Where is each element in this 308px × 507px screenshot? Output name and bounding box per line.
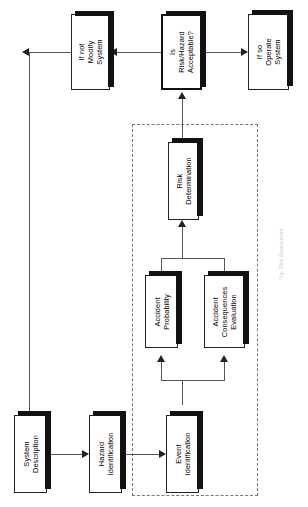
flowchart-canvas: If not Modify System Is Risk/Hazard Acce…: [0, 0, 308, 507]
box-shadow: [172, 138, 203, 143]
fork-bar: [161, 380, 225, 381]
arrowhead-up: [178, 220, 186, 227]
box-shadow: [45, 411, 51, 489]
node-label: If so Operate System: [255, 38, 283, 65]
node-if-so-operate-system[interactable]: If so Operate System: [248, 14, 289, 90]
arrowhead-right: [82, 450, 89, 458]
arrowhead-right: [241, 48, 248, 56]
node-if-not-modify-system[interactable]: If not Modify System: [71, 14, 110, 90]
fork-branch-consequences: [224, 362, 225, 381]
node-accident-consequences-evaluation[interactable]: Accident Consequences Evaluation: [204, 275, 245, 348]
box-shadow: [108, 11, 114, 87]
arrowhead-feedback: [22, 48, 29, 56]
box-shadow: [243, 271, 249, 344]
arrowhead-up: [220, 355, 228, 362]
fork-branch-probability: [161, 362, 162, 381]
box-shadow: [200, 11, 206, 87]
connector-hazard-to-event: [125, 454, 159, 455]
feedback-loop-top: [29, 52, 71, 53]
connector-sysdesc-to-hazard: [50, 454, 82, 455]
merge-stem: [182, 226, 183, 259]
box-shadow: [18, 411, 51, 416]
box-shadow: [120, 411, 126, 489]
node-accident-probability[interactable]: Accident Probability: [145, 275, 178, 348]
feedback-loop-vertical: [29, 52, 30, 393]
node-label: If not Modify System: [77, 39, 105, 64]
box-shadow: [208, 271, 249, 276]
node-label: Event Identification: [173, 433, 191, 476]
node-label: Accident Consequences Evaluation: [211, 286, 239, 337]
arrowhead-right: [159, 450, 166, 458]
box-shadow: [166, 11, 206, 16]
box-shadow: [252, 10, 293, 15]
node-label: Risk Determination: [174, 157, 192, 204]
arrowhead-up: [157, 355, 165, 362]
node-system-description[interactable]: System Description: [14, 415, 47, 493]
box-shadow: [287, 10, 293, 86]
node-risk-determination[interactable]: Risk Determination: [168, 142, 199, 220]
node-label: Is Risk/Hazard Acceptable?: [168, 31, 196, 73]
merge-bar: [161, 258, 225, 259]
box-shadow: [93, 411, 126, 416]
box-shadow: [170, 411, 203, 416]
node-label: Accident Probability: [152, 294, 170, 330]
fork-stem: [182, 380, 183, 405]
box-shadow: [149, 271, 182, 276]
arrowhead-up: [178, 92, 186, 99]
box-shadow: [197, 138, 203, 216]
connector-acceptable-to-modify: [117, 52, 161, 53]
node-hazard-identification[interactable]: Hazard Identification: [89, 415, 122, 493]
connector-riskdet-to-acceptable: [182, 98, 183, 142]
node-label: System Description: [21, 435, 39, 473]
node-label: Hazard Identification: [96, 433, 114, 476]
figure-caption: Fig. Risk Assessment: [278, 228, 284, 280]
box-shadow: [176, 271, 182, 344]
box-shadow: [197, 411, 203, 489]
connector-acceptable-to-operate: [206, 52, 241, 53]
box-shadow: [75, 11, 114, 16]
node-event-identification[interactable]: Event Identification: [166, 415, 199, 493]
node-risk-hazard-acceptable[interactable]: Is Risk/Hazard Acceptable?: [161, 14, 202, 90]
